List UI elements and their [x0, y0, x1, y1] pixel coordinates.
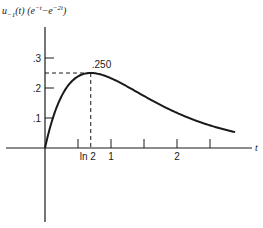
chart: .1.2.3 ln 212 .250 t u−1(t) (e−t−e−2t): [0, 0, 263, 228]
x-ticks: ln 212: [78, 139, 210, 162]
x-tick-label: ln 2: [80, 151, 97, 162]
response-curve: [45, 73, 235, 148]
y-ticks: .1.2.3: [33, 53, 54, 124]
y-tick-label: .1: [33, 113, 42, 124]
peak-value-label: .250: [92, 59, 112, 70]
y-tick-label: .3: [33, 53, 42, 64]
y-tick-label: .2: [33, 83, 42, 94]
x-tick-label: 2: [174, 151, 180, 162]
chart-title: u−1(t) (e−t−e−2t): [2, 4, 67, 19]
peak-annotation: .250: [92, 59, 112, 70]
x-axis-label: t: [255, 142, 258, 153]
x-tick-label: 1: [108, 151, 114, 162]
